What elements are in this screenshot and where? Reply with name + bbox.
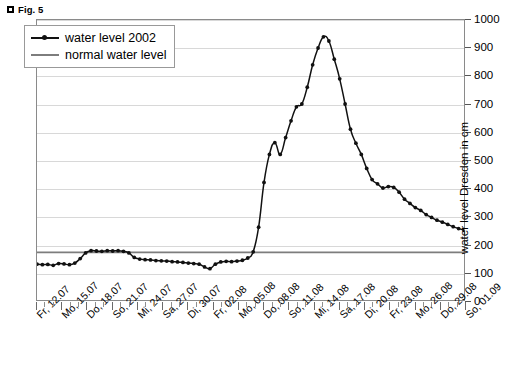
data-point: [149, 258, 153, 262]
data-point: [257, 225, 261, 229]
data-point: [181, 261, 185, 265]
y-tick-label-500: 500: [474, 154, 493, 166]
data-point: [397, 190, 401, 194]
x-tick-mark-37: [347, 302, 348, 307]
data-point: [78, 257, 82, 261]
y-tick-label-100: 100: [474, 267, 493, 279]
x-tick-mark-40: [372, 302, 373, 307]
data-point: [143, 258, 147, 262]
x-tick-mark-35: [330, 302, 331, 307]
data-point: [213, 262, 217, 266]
x-tick-mark-50: [457, 302, 458, 307]
data-point: [176, 260, 180, 264]
x-tick-mark-22: [221, 302, 222, 307]
x-tick-mark-47: [431, 302, 432, 307]
data-point: [138, 257, 142, 261]
data-point: [386, 185, 390, 189]
data-point: [278, 153, 282, 157]
data-point: [284, 136, 288, 140]
x-tick-mark-13: [145, 302, 146, 307]
data-point: [208, 267, 212, 271]
data-point: [219, 260, 223, 264]
data-point: [246, 256, 250, 260]
x-tick-mark-26: [255, 302, 256, 307]
data-point: [262, 181, 266, 185]
data-point: [111, 249, 115, 253]
x-tick-mark-17: [179, 302, 180, 307]
data-point: [289, 119, 293, 123]
data-point: [322, 35, 326, 39]
y-tick-mark-700: [465, 104, 471, 105]
data-point: [95, 249, 99, 253]
data-point: [251, 250, 255, 254]
data-point: [354, 141, 358, 145]
data-point: [392, 186, 396, 190]
data-point: [170, 260, 174, 264]
data-point: [430, 216, 434, 220]
x-tick-mark-8: [103, 302, 104, 307]
x-tick-mark-41: [381, 302, 382, 307]
data-point: [446, 223, 450, 227]
water-level-2002-line: [37, 36, 464, 269]
x-tick-mark-2: [53, 302, 54, 307]
data-point: [73, 261, 77, 265]
data-point: [316, 46, 320, 50]
data-point: [311, 63, 315, 67]
data-point: [100, 249, 104, 253]
y-tick-mark-100: [465, 273, 471, 274]
data-point: [62, 262, 66, 266]
legend-item-water-level-2002: water level 2002: [31, 29, 166, 46]
x-tick-mark-43: [398, 302, 399, 307]
data-point: [305, 85, 309, 89]
y-tick-label-300: 300: [474, 210, 493, 222]
y-tick-label-900: 900: [474, 41, 493, 53]
data-point: [36, 262, 39, 266]
data-point: [332, 57, 336, 61]
data-point: [424, 213, 428, 217]
x-tick-mark-23: [229, 302, 230, 307]
data-point: [57, 262, 61, 266]
data-point: [230, 260, 234, 264]
legend-item-normal-water-level: normal water level: [31, 46, 166, 63]
data-point: [419, 209, 423, 213]
data-point: [365, 167, 369, 171]
data-point: [105, 249, 109, 253]
data-point: [224, 259, 228, 263]
data-point: [376, 182, 380, 186]
data-point: [370, 178, 374, 182]
data-point: [203, 265, 207, 269]
data-point: [300, 102, 304, 106]
data-point: [127, 251, 131, 255]
data-point: [84, 251, 88, 255]
y-tick-label-700: 700: [474, 98, 493, 110]
x-tick-mark-46: [423, 302, 424, 307]
data-point: [116, 249, 120, 253]
data-point: [273, 141, 277, 145]
x-tick-mark-20: [204, 302, 205, 307]
data-point: [408, 202, 412, 206]
data-point: [381, 186, 385, 190]
x-tick-mark-34: [322, 302, 323, 307]
legend-marker-line-dot-icon: [31, 33, 59, 43]
x-tick-mark-29: [280, 302, 281, 307]
data-point: [46, 263, 50, 267]
data-point: [186, 261, 190, 265]
x-tick-mark-11: [129, 302, 130, 307]
x-tick-mark-19: [196, 302, 197, 307]
data-point: [295, 105, 299, 109]
x-tick-mark-32: [305, 302, 306, 307]
data-point: [338, 77, 342, 81]
x-tick-mark-16: [171, 302, 172, 307]
data-point: [327, 39, 331, 43]
y-tick-mark-900: [465, 47, 471, 48]
x-tick-mark-14: [154, 302, 155, 307]
y-tick-label-1000: 1000: [474, 13, 500, 25]
data-point: [403, 197, 407, 201]
x-tick-mark-28: [272, 302, 273, 307]
data-point: [89, 249, 93, 253]
data-point: [51, 263, 55, 267]
data-point: [165, 259, 169, 263]
data-point: [349, 127, 353, 131]
chart-root: 01002003004005006007008009001000 water l…: [0, 0, 532, 376]
chart-legend: water level 2002 normal water level: [24, 25, 175, 68]
